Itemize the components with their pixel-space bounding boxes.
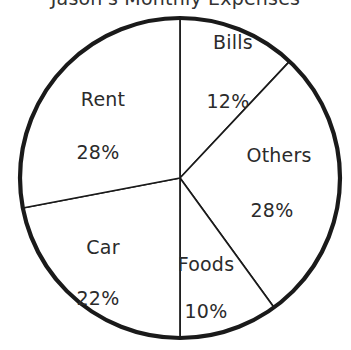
- slice-label-others: Others: [246, 144, 311, 166]
- slice-value-others: 28%: [251, 199, 294, 221]
- slice-value-rent: 28%: [77, 141, 120, 163]
- slice-value-foods: 10%: [185, 300, 228, 322]
- slice-value-bills: 12%: [207, 90, 250, 112]
- slice-label-foods: Foods: [178, 253, 234, 275]
- slice-label-car: Car: [86, 236, 119, 258]
- pie-slice-rent[interactable]: [20, 18, 180, 208]
- pie-chart: [0, 0, 351, 350]
- slice-value-car: 22%: [77, 287, 120, 309]
- pie-chart-page: Jason's Monthly Expenses Bills12%Others2…: [0, 0, 351, 350]
- slice-label-bills: Bills: [213, 31, 253, 53]
- slice-label-rent: Rent: [81, 88, 125, 110]
